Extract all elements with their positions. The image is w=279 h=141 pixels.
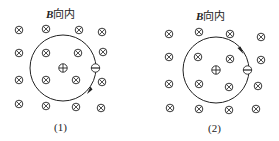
field-into-page-icon [195,28,203,36]
field-into-page-icon [42,49,50,57]
caption-1: (1) [54,121,67,134]
title-1: B向内 [45,7,75,20]
field-into-page-icon [72,103,80,111]
field-into-page-icon [15,100,23,108]
field-into-page-icon [74,49,82,57]
field-into-page-icon [225,83,233,91]
caption-2: (2) [208,122,221,135]
negative-charge-icon-1 [91,64,99,72]
magnetic-field-diagram: B向内 (1) B向内 (2) [0,0,279,141]
field-into-page-icon [42,25,50,33]
field-into-page-icon [252,105,260,113]
positive-charge-icon-1 [59,64,67,72]
field-into-page-icon [42,76,50,84]
field-into-page-icon [97,104,105,112]
title-2: B向内 [195,9,225,22]
field-into-page-icon [194,53,202,61]
field-into-page-icon [75,26,83,34]
field-into-page-icon [72,76,80,84]
field-into-page-icon [42,102,50,110]
field-into-page-icon [226,55,234,63]
field-into-page-icon [165,80,173,88]
field-into-page-icon [225,106,233,114]
field-into-page-icon [98,78,106,86]
positive-charge-icon-2 [212,66,220,74]
field-into-page-icon [195,105,203,113]
field-into-page-icon [226,30,234,38]
field-into-page-icon [15,76,23,84]
field-into-page-icon [257,33,265,41]
field-into-page-icon [254,82,262,90]
figure-1: B向内 (1) [15,7,107,134]
field-into-page-icon [99,48,107,56]
field-into-page-icon [195,80,203,88]
field-into-page-icon [98,28,106,36]
figure-2: B向内 (2) [165,9,265,135]
field-into-page-icon [166,104,174,112]
field-into-page-icon [15,49,23,57]
field-into-page-icon [165,30,173,38]
field-into-page-icon [15,26,23,34]
field-into-page-icon [165,53,173,61]
negative-charge-icon-2 [243,66,251,74]
field-into-page-icon [257,56,265,64]
